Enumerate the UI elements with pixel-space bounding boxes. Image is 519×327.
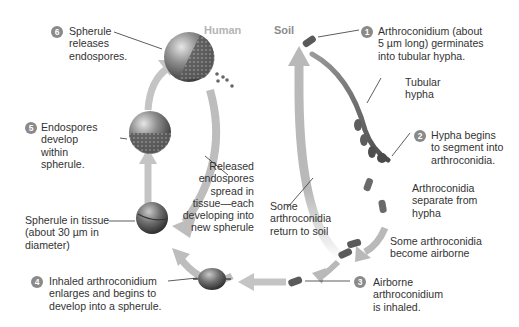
step-3-badge: 3 (354, 276, 366, 288)
become-airborne-label: Some arthroconidiabecome airborne (390, 235, 482, 260)
soil-arthroconidium (302, 35, 317, 49)
released-endospores-label: Releasedendosporesspread intissue—eachde… (170, 160, 254, 234)
spherule-in-tissue (136, 202, 168, 234)
clipped-figure-caption (0, 318, 519, 327)
step-2-badge: 2 (414, 130, 426, 142)
spherule-in-tissue-label: Spherule in tissue(about 30 µm indiamete… (25, 214, 109, 251)
coccidioides-life-cycle-diagram: Human Soil 6 Spherulereleasesendospores.… (0, 0, 519, 327)
arthroconidia-separating (363, 177, 387, 213)
step-4-badge: 4 (31, 276, 43, 288)
caption-fragment-strokes (0, 323, 519, 327)
step-2-label: Hypha beginsto segment intoarthroconidia… (431, 129, 503, 166)
step-5-badge: 5 (25, 122, 37, 134)
tubular-hypha (312, 54, 388, 163)
step-6-label: Spherulereleasesendospores. (69, 25, 127, 62)
step-3-label: Airbornearthroconidiumis inhaled. (373, 276, 443, 313)
region-label-soil: Soil (274, 24, 294, 36)
tubular-hypha-label: Tubularhypha (405, 76, 441, 101)
return-to-soil-label: Somearthroconidiareturn to soil (270, 200, 331, 237)
leader-lines (109, 30, 410, 281)
step-1-label: Arthroconidium (about5 µm long) germinat… (378, 25, 484, 62)
step-1-badge: 1 (361, 26, 373, 38)
arrow-spherule-to-5 (139, 148, 157, 205)
step-4-label: Inhaled arthroconidiumenlarges and begin… (49, 275, 162, 312)
spherule-developing-endospores (129, 111, 171, 154)
step-6-badge: 6 (51, 26, 63, 38)
region-label-human: Human (204, 24, 241, 36)
arthroconidia-separate-label: Arthroconidiaseparate fromhypha (412, 182, 477, 219)
inhaled-arthroconidium (287, 276, 303, 287)
arrow-3-to-4 (238, 273, 286, 291)
spherule-releasing-endospores (164, 32, 234, 88)
step-5-label: Endosporesdevelopwithinspherule. (41, 121, 98, 170)
